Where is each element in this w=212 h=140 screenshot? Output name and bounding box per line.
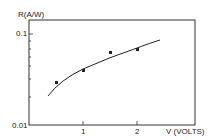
y-tick-0.1: 0.1 — [16, 30, 27, 38]
y-axis-label: R(A/W) — [18, 11, 44, 19]
x-axis-label: V (VOLTS) — [166, 128, 205, 136]
x-tick-1: 1 — [81, 128, 85, 136]
y-tick-0.01: 0.01 — [12, 122, 28, 130]
plot-frame — [29, 20, 195, 125]
y-minor-ticks — [29, 34, 137, 125]
data-points — [55, 48, 139, 84]
x-tick-2: 2 — [135, 128, 139, 136]
plot-area — [0, 0, 212, 140]
fit-curve — [48, 40, 160, 96]
